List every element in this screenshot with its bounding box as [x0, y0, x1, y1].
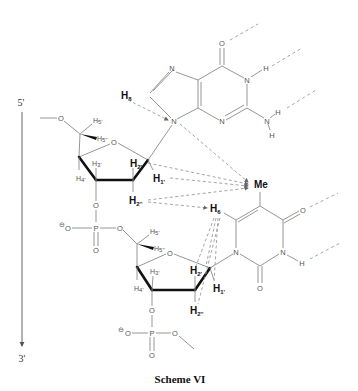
svg-text:N: N [169, 64, 174, 73]
h5dprime-label: H5'' [97, 135, 108, 143]
svg-text:O: O [149, 306, 155, 315]
svg-text:O: O [117, 224, 123, 233]
h1prime-label: H1' [153, 173, 166, 185]
nucleotide-scheme-diagram: 5' 3' O N H N H H N N N H8 [0, 0, 358, 391]
h3prime-label: H3' [92, 160, 102, 168]
svg-text:H: H [299, 259, 304, 268]
svg-text:O: O [58, 114, 64, 123]
h5dprime-label: H5'' [154, 245, 165, 253]
h8-label: H8 [121, 90, 132, 102]
svg-text:H: H [269, 131, 274, 140]
h2prime-label: H2' [190, 265, 203, 277]
svg-text:N: N [280, 248, 285, 257]
svg-text:O: O [93, 201, 99, 210]
svg-text:O: O [300, 206, 306, 215]
svg-text:H: H [275, 108, 280, 117]
h2prime-label: H2' [130, 158, 143, 170]
three-prime-label: 3' [19, 353, 26, 364]
svg-text:H: H [263, 64, 268, 73]
svg-text:O: O [65, 224, 71, 233]
h2dprime-label: H2'' [129, 195, 143, 207]
five-prime-label: 5' [18, 97, 25, 108]
h4prime-label: H4' [76, 175, 86, 183]
svg-text:N: N [171, 117, 176, 126]
phosphate-1: P ⊖ O O O [59, 221, 123, 255]
svg-text:O: O [172, 329, 178, 338]
scheme-caption: Scheme VI [155, 373, 206, 385]
svg-text:N: N [244, 76, 249, 85]
h3prime-label: H3' [150, 268, 160, 276]
sugar-1: O O O H5' H5'' H3' H4' H2' H2'' H1' [40, 114, 172, 222]
svg-text:N: N [219, 117, 224, 126]
h5prime-label: H5' [93, 117, 103, 125]
h2dprime-label: H2'' [190, 305, 204, 317]
svg-text:O: O [149, 351, 155, 360]
h5prime-label: H5' [150, 228, 160, 236]
h6-label: H6 [210, 203, 221, 215]
phosphate-2: P ⊖ O O O [118, 326, 194, 360]
svg-text:O: O [125, 329, 131, 338]
h4prime-label: H4' [134, 285, 144, 293]
svg-text:O: O [111, 138, 117, 147]
svg-text:O: O [257, 284, 263, 293]
strand-direction: 5' 3' [18, 97, 26, 364]
svg-text:O: O [219, 39, 225, 48]
methyl-label: Me [254, 179, 268, 190]
thymine-base: Me O N N H O H6 [210, 179, 340, 293]
svg-text:N: N [264, 117, 269, 126]
h1prime-label: H1' [213, 283, 226, 295]
noe-contacts [128, 100, 248, 304]
guanine-base: O N H N H H N N N H8 [121, 24, 316, 140]
svg-text:O: O [93, 246, 99, 255]
svg-text:P: P [93, 224, 98, 233]
svg-text:⊖: ⊖ [118, 326, 124, 333]
svg-text:O: O [167, 249, 173, 258]
svg-text:N: N [233, 248, 238, 257]
svg-text:P: P [149, 329, 154, 338]
